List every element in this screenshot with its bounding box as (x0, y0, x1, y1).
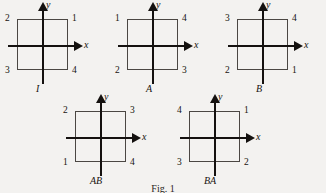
y-axis-line (262, 10, 264, 84)
x-axis-arrowhead-icon (246, 133, 255, 143)
corner-label-bottom-left: 1 (63, 158, 68, 168)
corner-label-top-right: 3 (130, 106, 135, 116)
y-axis-line (42, 10, 44, 84)
corner-label-bottom-right: 2 (244, 158, 249, 168)
y-axis-label: y (266, 0, 270, 10)
corner-label-top-left: 3 (225, 14, 230, 24)
x-axis-label: x (84, 40, 88, 50)
x-axis-arrowhead-icon (294, 41, 303, 51)
corner-label-top-right: 1 (72, 14, 77, 24)
y-axis-label: y (218, 92, 222, 102)
y-axis-line (214, 102, 216, 176)
figure-caption: Fig. 1 (0, 184, 326, 193)
diagram-panel-ab: x y 2 3 1 4 AB (58, 92, 154, 188)
corner-label-top-left: 2 (63, 106, 68, 116)
corner-label-bottom-left: 2 (115, 66, 120, 76)
y-axis-line (152, 10, 154, 84)
corner-label-top-left: 1 (115, 14, 120, 24)
y-axis-label: y (156, 0, 160, 10)
corner-label-bottom-right: 4 (130, 158, 135, 168)
corner-label-bottom-left: 3 (5, 66, 10, 76)
x-axis-label: x (256, 132, 260, 142)
corner-label-top-right: 4 (292, 14, 297, 24)
corner-label-bottom-left: 2 (225, 66, 230, 76)
x-axis-arrowhead-icon (132, 133, 141, 143)
corner-label-bottom-right: 3 (182, 66, 187, 76)
corner-label-top-left: 4 (177, 106, 182, 116)
corner-label-top-right: 1 (244, 106, 249, 116)
x-axis-label: x (304, 40, 308, 50)
corner-label-top-right: 4 (182, 14, 187, 24)
diagram-panel-a: x y 1 4 2 3 A (110, 0, 206, 96)
corner-label-bottom-right: 4 (72, 66, 77, 76)
y-axis-label: y (104, 92, 108, 102)
corner-label-bottom-right: 1 (292, 66, 297, 76)
x-axis-label: x (194, 40, 198, 50)
figure-sheet: x y 2 1 3 4 I x y 1 4 2 3 A x y 3 4 2 1 … (0, 0, 326, 193)
corner-label-bottom-left: 3 (177, 158, 182, 168)
x-axis-label: x (142, 132, 146, 142)
y-axis-line (100, 102, 102, 176)
x-axis-arrowhead-icon (74, 41, 83, 51)
x-axis-arrowhead-icon (184, 41, 193, 51)
diagram-panel-b: x y 3 4 2 1 B (220, 0, 316, 96)
diagram-panel-i: x y 2 1 3 4 I (0, 0, 96, 96)
diagram-panel-ba: x y 4 1 3 2 BA (172, 92, 268, 188)
y-axis-label: y (46, 0, 50, 10)
panel-name-label: I (36, 84, 39, 94)
corner-label-top-left: 2 (5, 14, 10, 24)
